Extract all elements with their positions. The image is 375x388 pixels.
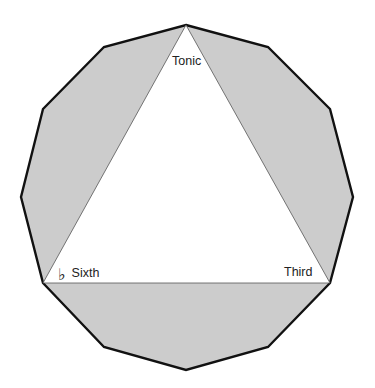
label-tonic: Tonic: [172, 55, 201, 68]
flat-accidental-icon: ♭: [58, 265, 66, 284]
tonic-text: Tonic: [172, 54, 201, 68]
sixth-text: Sixth: [72, 266, 100, 280]
third-text: Third: [284, 265, 312, 279]
label-sixth: ♭Sixth: [58, 264, 99, 280]
label-third: Third: [284, 266, 312, 279]
